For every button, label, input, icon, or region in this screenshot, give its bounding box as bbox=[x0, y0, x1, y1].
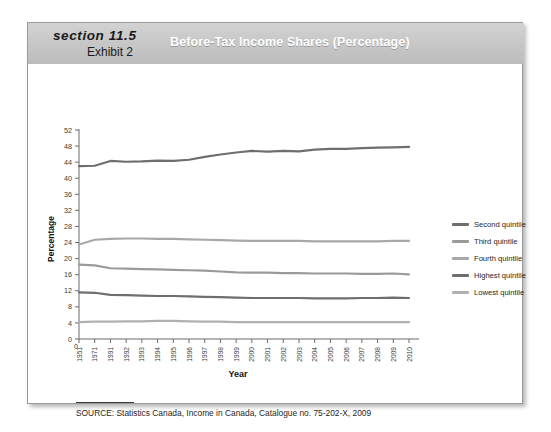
svg-text:1991: 1991 bbox=[107, 347, 114, 362]
chart-title: Before-Tax Income Shares (Percentage) bbox=[170, 35, 410, 49]
svg-text:1997: 1997 bbox=[201, 347, 208, 362]
series-group bbox=[79, 147, 409, 322]
legend-item: Third quintile bbox=[452, 233, 526, 250]
legend-label: Lowest quintile bbox=[474, 288, 524, 297]
svg-text:1995: 1995 bbox=[170, 347, 177, 362]
svg-text:2006: 2006 bbox=[343, 347, 350, 362]
source-rule bbox=[76, 402, 134, 403]
svg-text:12: 12 bbox=[64, 286, 72, 295]
svg-text:40: 40 bbox=[64, 174, 72, 183]
svg-text:28: 28 bbox=[64, 222, 72, 231]
svg-text:24: 24 bbox=[64, 238, 72, 247]
legend-item: Highest quintile bbox=[452, 267, 526, 284]
y-axis-group: 0481216202428323640444852 bbox=[64, 126, 79, 344]
source-text: SOURCE: Statistics Canada, Income in Can… bbox=[76, 408, 371, 418]
svg-text:2004: 2004 bbox=[311, 347, 318, 362]
svg-text:2003: 2003 bbox=[296, 347, 303, 362]
svg-text:8: 8 bbox=[68, 302, 72, 311]
legend-item: Fourth quintile bbox=[452, 250, 526, 267]
legend-swatch-icon bbox=[452, 291, 469, 294]
series-line bbox=[79, 321, 409, 322]
legend-label: Fourth quintile bbox=[474, 254, 522, 263]
svg-text:2005: 2005 bbox=[327, 347, 334, 362]
svg-text:1999: 1999 bbox=[233, 347, 240, 362]
legend-item: Lowest quintile bbox=[452, 284, 526, 301]
svg-text:2002: 2002 bbox=[280, 347, 287, 362]
svg-text:32: 32 bbox=[64, 206, 72, 215]
x-axis-title: Year bbox=[178, 369, 298, 379]
legend-swatch-icon bbox=[452, 257, 469, 260]
series-line bbox=[79, 292, 409, 298]
series-line bbox=[79, 147, 409, 166]
line-chart: 0481216202428323640444852 19511971199119… bbox=[28, 64, 524, 364]
svg-text:2009: 2009 bbox=[390, 347, 397, 362]
svg-text:1998: 1998 bbox=[217, 347, 224, 362]
svg-text:16: 16 bbox=[64, 270, 72, 279]
legend-label: Highest quintile bbox=[474, 271, 526, 280]
svg-text:4: 4 bbox=[68, 319, 72, 328]
svg-text:1992: 1992 bbox=[123, 347, 130, 362]
svg-text:44: 44 bbox=[64, 158, 72, 167]
svg-text:1996: 1996 bbox=[186, 347, 193, 362]
svg-text:1994: 1994 bbox=[154, 347, 161, 362]
legend-swatch-icon bbox=[452, 223, 469, 226]
svg-text:2010: 2010 bbox=[406, 347, 413, 362]
legend-label: Third quintile bbox=[474, 237, 517, 246]
svg-text:2008: 2008 bbox=[374, 347, 381, 362]
svg-text:48: 48 bbox=[64, 142, 72, 151]
x-axis-group: 1951197119911992199319941995199619971998… bbox=[74, 339, 419, 362]
svg-text:2000: 2000 bbox=[248, 347, 255, 362]
svg-text:0: 0 bbox=[68, 335, 72, 344]
svg-text:1993: 1993 bbox=[138, 347, 145, 362]
legend-swatch-icon bbox=[452, 274, 469, 277]
svg-text:1971: 1971 bbox=[91, 347, 98, 362]
series-line bbox=[79, 265, 409, 275]
legend-item: Second quintile bbox=[452, 216, 526, 233]
svg-text:52: 52 bbox=[64, 126, 72, 135]
svg-text:2007: 2007 bbox=[358, 347, 365, 362]
svg-text:36: 36 bbox=[64, 190, 72, 199]
svg-text:0: 0 bbox=[74, 342, 78, 351]
section-label: section 11.5 bbox=[53, 28, 137, 43]
legend-label: Second quintile bbox=[474, 220, 526, 229]
svg-text:20: 20 bbox=[64, 254, 72, 263]
legend-swatch-icon bbox=[452, 240, 469, 243]
exhibit-card: section 11.5 Exhibit 2 Before-Tax Income… bbox=[27, 22, 523, 404]
svg-text:2001: 2001 bbox=[264, 347, 271, 362]
plot-area: Percentage Year 048121620242832364044485… bbox=[28, 64, 524, 405]
exhibit-header-band: section 11.5 Exhibit 2 Before-Tax Income… bbox=[28, 23, 524, 64]
exhibit-label: Exhibit 2 bbox=[87, 45, 133, 59]
chart-legend: Second quintileThird quintileFourth quin… bbox=[452, 216, 526, 301]
screenshot-root: section 11.5 Exhibit 2 Before-Tax Income… bbox=[0, 0, 551, 432]
series-line bbox=[79, 239, 409, 245]
